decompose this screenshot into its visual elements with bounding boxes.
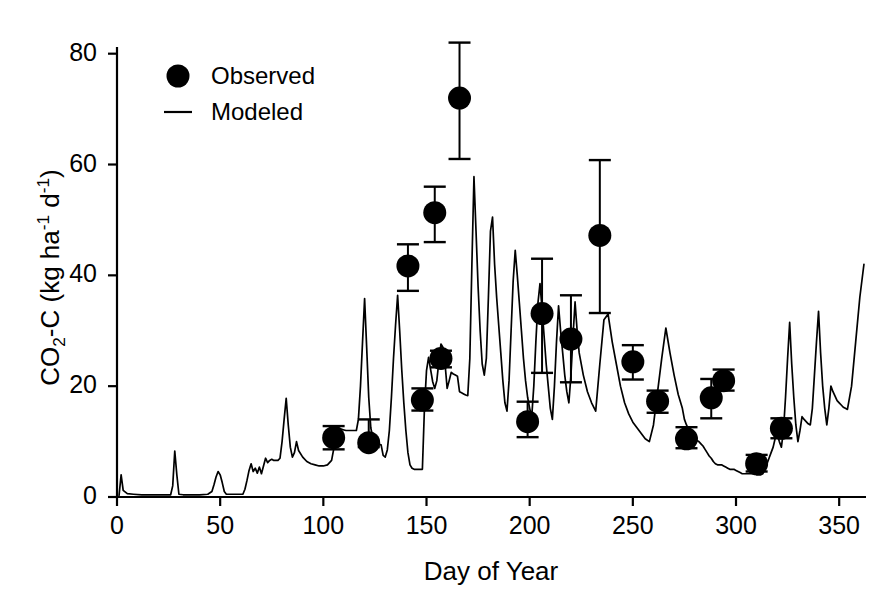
observed-data-point	[588, 224, 611, 247]
legend-markers	[164, 65, 192, 113]
observed-data-point	[745, 452, 768, 475]
observed-data-point	[411, 389, 434, 412]
x-axis-ticks	[117, 497, 839, 506]
observed-data-point	[357, 431, 380, 454]
observed-data-point	[675, 427, 698, 450]
observed-data-point	[448, 87, 471, 110]
observed-data-point	[516, 410, 539, 433]
observed-data-point	[646, 390, 669, 413]
x-axis-label-text: Day of Year	[424, 556, 558, 586]
x-tick-label: 50	[180, 511, 260, 540]
x-axis-label: Day of Year	[117, 556, 865, 587]
x-tick-label: 350	[799, 511, 879, 540]
observed-data-point	[396, 254, 419, 277]
observed-data-point	[423, 201, 446, 224]
observed-data-point	[621, 350, 644, 373]
observed-data-point	[531, 302, 554, 325]
observed-data-point	[559, 328, 582, 351]
y-tick-label: 80	[37, 38, 97, 67]
x-tick-label: 100	[283, 511, 363, 540]
y-tick-label: 40	[37, 259, 97, 288]
observed-data-point	[322, 426, 345, 449]
x-tick-label: 250	[593, 511, 673, 540]
observed-points-series	[322, 43, 793, 476]
legend-item-observed: Observed	[211, 62, 315, 90]
figure-container: Observed Modeled CO2-C (kg ha-1 d-1) Day…	[0, 0, 893, 612]
y-axis-ticks	[108, 54, 117, 497]
y-tick-label: 60	[37, 149, 97, 178]
x-tick-label: 150	[387, 511, 467, 540]
observed-data-point	[429, 347, 452, 370]
legend-observed-marker-icon	[167, 65, 190, 88]
observed-data-point	[770, 417, 793, 440]
y-tick-label: 0	[37, 481, 97, 510]
x-tick-label: 300	[696, 511, 776, 540]
x-tick-label: 200	[490, 511, 570, 540]
legend-item-modeled: Modeled	[211, 98, 303, 126]
x-tick-label: 0	[77, 511, 157, 540]
observed-data-point	[712, 369, 735, 392]
y-tick-label: 20	[37, 370, 97, 399]
modeled-line-series	[119, 177, 864, 496]
